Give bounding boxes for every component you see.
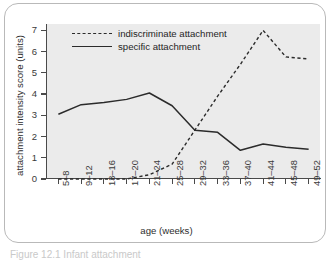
solid-line-icon <box>72 42 112 51</box>
x-axis-tick <box>81 179 82 184</box>
x-axis-tick <box>263 179 264 184</box>
x-axis-tick <box>308 179 309 184</box>
figure-caption: Figure 12.1 Infant attachment <box>10 249 141 261</box>
y-axis-tick <box>41 157 46 158</box>
y-axis-tick-label: 4 <box>23 89 37 99</box>
y-axis-tick-label: 3 <box>23 110 37 120</box>
series-line-specific-attachment <box>58 93 308 150</box>
y-axis-tick-label: 6 <box>23 47 37 57</box>
x-axis-tick <box>240 179 241 184</box>
x-axis-tick <box>194 179 195 184</box>
x-axis-tick <box>217 179 218 184</box>
dashed-line-icon <box>72 29 112 38</box>
y-axis-tick-label: 0 <box>23 174 37 184</box>
y-axis-tick <box>41 72 46 73</box>
legend-label: indiscriminate attachment <box>118 28 227 39</box>
y-axis-tick-label: 1 <box>23 153 37 163</box>
x-axis-tick <box>285 179 286 184</box>
legend-item-specific-attachment: specific attachment <box>72 40 227 53</box>
y-axis-tick <box>41 93 46 94</box>
y-axis-title: attachment intensity score (units) <box>14 31 25 181</box>
x-axis-tick <box>149 179 150 184</box>
x-axis-tick <box>126 179 127 184</box>
y-axis-tick <box>41 136 46 137</box>
x-axis-tick <box>172 179 173 184</box>
x-axis-title: age (weeks) <box>0 225 333 236</box>
x-axis-tick <box>103 179 104 184</box>
y-axis-tick <box>41 115 46 116</box>
y-axis-tick-label: 2 <box>23 132 37 142</box>
chart-legend: indiscriminate attachment specific attac… <box>72 27 227 53</box>
legend-label: specific attachment <box>118 41 200 52</box>
y-axis-tick-label: 5 <box>23 68 37 78</box>
x-axis-tick <box>58 179 59 184</box>
y-axis-tick <box>41 30 46 31</box>
legend-item-indiscriminate-attachment: indiscriminate attachment <box>72 27 227 40</box>
y-axis-tick-label: 7 <box>23 25 37 35</box>
attachment-intensity-line-chart: 01234567 5–89–1213–1617–2021–2425–2829–3… <box>0 0 333 262</box>
y-axis-tick <box>41 178 46 179</box>
y-axis-tick <box>41 51 46 52</box>
